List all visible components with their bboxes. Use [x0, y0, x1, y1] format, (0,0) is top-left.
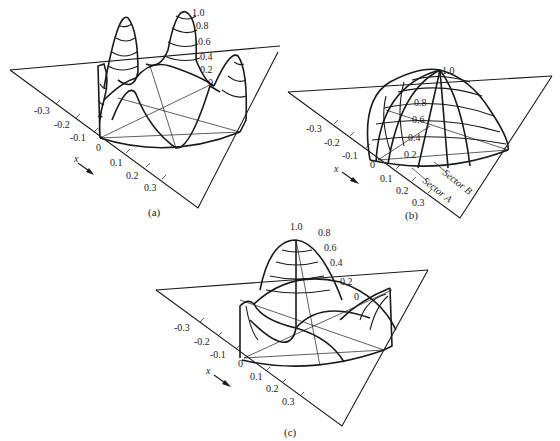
grid-lines-b	[378, 110, 508, 160]
z-tick: 0.4	[200, 51, 213, 62]
x-tick: -0.2	[54, 119, 70, 130]
surface-c	[240, 240, 396, 366]
z-tick: 0.8	[414, 97, 427, 108]
x-tick: 0.2	[266, 383, 279, 394]
z-tick: 0.4	[408, 132, 421, 143]
x-tick: 0.2	[126, 170, 139, 181]
caption-b: (b)	[405, 209, 418, 222]
caption-c: (c)	[284, 426, 297, 439]
z-tick: 0	[208, 77, 213, 88]
z-tick: 0.2	[200, 64, 213, 75]
x-axis-label: x	[333, 163, 339, 174]
panel-a: -0.3 -0.2 -0.1 0 0.1 0.2 0.3 x	[10, 7, 280, 219]
x-tick: -0.1	[70, 132, 86, 143]
x-tick: 0.1	[250, 371, 263, 382]
x-tick: -0.1	[210, 349, 226, 360]
x-tick: 0.3	[282, 396, 295, 407]
panel-b: -0.3 -0.2 -0.1 0 0.1 0.2 0.3 x	[288, 65, 552, 222]
x-tick: 0.1	[380, 173, 393, 184]
caption-a: (a)	[148, 206, 161, 219]
z-tick: 0.2	[404, 149, 417, 160]
z-tick: 0.6	[412, 114, 425, 125]
z-tick: 0.2	[340, 276, 353, 287]
z-tick: 1.0	[290, 221, 303, 232]
x-tick: 0.3	[144, 182, 157, 193]
z-tick: 0.6	[324, 242, 337, 253]
plane-edge-back	[156, 270, 428, 290]
x-tick: -0.3	[34, 105, 50, 116]
x-axis-label: x	[73, 153, 79, 164]
z-tick: 0.4	[330, 257, 343, 268]
x-tick: 0	[96, 142, 101, 153]
x-tick: -0.2	[324, 137, 340, 148]
z-tick: 0	[354, 291, 359, 302]
base-curve	[100, 132, 240, 148]
z-tick: 1.0	[192, 7, 205, 18]
z-tick: 1.0	[442, 65, 455, 76]
panel-c: -0.3 -0.2 -0.1 0 0.1 0.2 0.3 x	[156, 221, 428, 439]
x-tick: -0.2	[194, 336, 210, 347]
z-tick: 0.8	[196, 20, 209, 31]
x-tick: 0.1	[110, 157, 123, 168]
x-tick: -0.3	[174, 322, 190, 333]
figure-canvas: -0.3 -0.2 -0.1 0 0.1 0.2 0.3 x	[0, 0, 560, 441]
grid-lines-a	[100, 66, 240, 148]
x-tick: 0.3	[412, 197, 425, 208]
z-tick: 0.8	[318, 227, 331, 238]
contour-lines-b	[372, 76, 506, 150]
z-tick: 0.6	[198, 36, 211, 47]
grid-lines-c	[240, 240, 392, 366]
x-tick: 0.2	[396, 185, 409, 196]
x-tick: -0.3	[306, 123, 322, 134]
x-axis-label: x	[205, 365, 211, 376]
x-tick: -0.1	[342, 150, 358, 161]
